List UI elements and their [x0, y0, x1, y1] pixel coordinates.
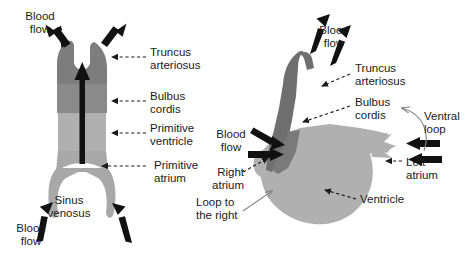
pointer-loop-to-the-right — [243, 191, 272, 211]
left-heart-tube — [48, 41, 115, 218]
label-loop-to-the-right: Loop to the right — [196, 196, 238, 222]
label-bulbus-cordis-right: Bulbus cordis — [355, 96, 390, 122]
leader-r-bulbus — [303, 106, 350, 122]
truncus-fork-shape — [300, 52, 314, 70]
label-blood-flow-top-right: Blood flow — [306, 24, 362, 50]
r-left-inflow-arrow-upper-shaft — [418, 140, 440, 147]
label-bulbus-cordis-left: Bulbus cordis — [150, 90, 185, 116]
label-right-atrium: Right atrium — [198, 166, 244, 192]
label-sinus-venosus: Sinus venosus — [38, 194, 100, 220]
r-left-inflow-arrow-upper-head — [406, 137, 420, 150]
outflow-arrow-right-shaft — [101, 26, 120, 47]
label-blood-flow-top-left: Blood flow — [10, 10, 70, 36]
leader-r-truncus — [322, 74, 350, 86]
label-primitive-atrium: Primitive atrium — [154, 159, 198, 185]
inflow-arrow-right-shaft — [119, 216, 133, 243]
label-blood-flow-bottom-left: Blood flow — [2, 222, 60, 248]
label-ventral-loop: Ventral loop — [424, 110, 460, 136]
label-truncus-arteriosus-left: Truncus arteriosus — [150, 46, 201, 72]
label-ventricle: Ventricle — [360, 193, 404, 206]
label-primitive-ventricle: Primitive ventricle — [150, 122, 194, 148]
label-truncus-arteriosus-right: Truncus arteriosus — [355, 62, 406, 88]
figure-canvas: Blood flow Truncus arteriosus Bulbus cor… — [0, 0, 469, 257]
label-blood-flow-right-panel: Blood flow — [206, 128, 256, 154]
left-leader-lines — [102, 57, 146, 166]
outflow-arrow-right-head — [115, 24, 126, 37]
label-left-atrium: Left atrium — [406, 156, 438, 182]
